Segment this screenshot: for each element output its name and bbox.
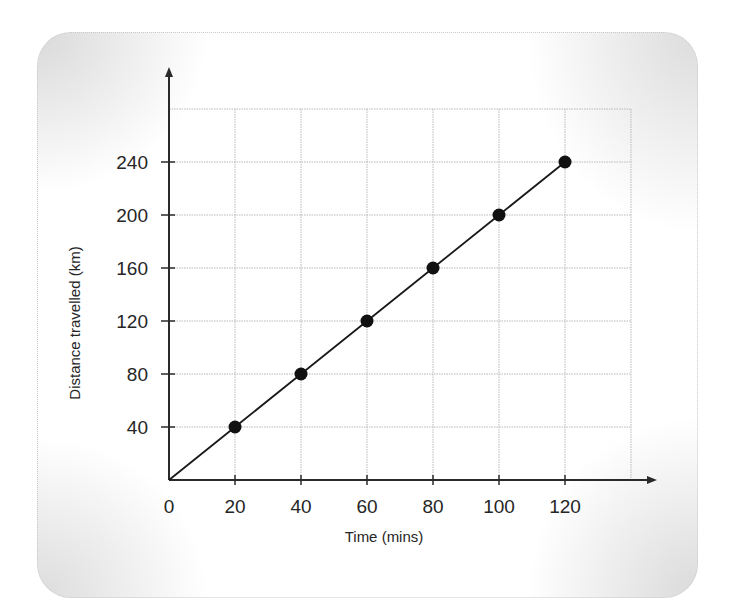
y-tick-label: 80: [127, 364, 148, 385]
data-point-marker: [295, 368, 308, 381]
data-series: [169, 156, 572, 481]
y-tick-label: 200: [116, 205, 148, 226]
y-tick-label: 160: [116, 258, 148, 279]
axes: [165, 67, 657, 484]
y-tick-label: 120: [116, 311, 148, 332]
x-axis-title: Time (mins): [345, 528, 424, 545]
y-axis-arrow-icon: [165, 67, 173, 77]
x-axis-arrow-icon: [647, 476, 657, 484]
line-chart: 020406080100120 4080120160200240 Time (m…: [0, 0, 732, 612]
y-tick-label: 240: [116, 152, 148, 173]
x-tick-label: 100: [483, 496, 515, 517]
data-point-marker: [361, 315, 374, 328]
x-tick-label: 120: [549, 496, 581, 517]
data-point-marker: [493, 209, 506, 222]
x-tick-label: 60: [356, 496, 377, 517]
x-tick-label: 80: [422, 496, 443, 517]
x-tick-label: 0: [164, 496, 175, 517]
data-point-marker: [427, 262, 440, 275]
data-point-marker: [559, 156, 572, 169]
y-tick-labels: 4080120160200240: [116, 152, 148, 438]
y-axis-title: Distance travelled (km): [66, 246, 83, 399]
y-tick-label: 40: [127, 417, 148, 438]
x-tick-label: 20: [224, 496, 245, 517]
x-tick-labels: 020406080100120: [164, 496, 581, 517]
x-tick-label: 40: [290, 496, 311, 517]
data-point-marker: [229, 421, 242, 434]
